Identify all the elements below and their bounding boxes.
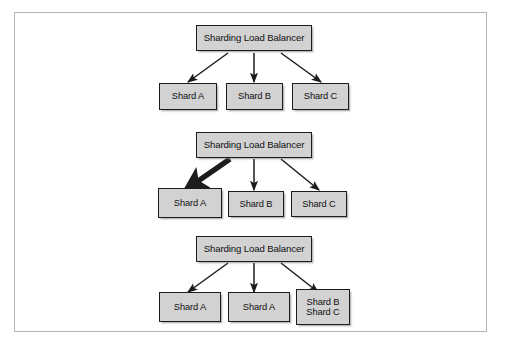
connector-middle-to-shard-c — [281, 159, 319, 190]
shard-node-middle-a[interactable]: Shard A — [158, 188, 222, 218]
load-balancer-top-label: Sharding Load Balancer — [204, 33, 305, 44]
connector-bottom-to-shard-3 — [281, 263, 318, 292]
load-balancer-middle-label: Sharding Load Balancer — [204, 140, 305, 151]
load-balancer-top[interactable]: Sharding Load Balancer — [196, 25, 312, 51]
shard-node-bottom-2[interactable]: Shard A — [228, 292, 290, 322]
shard-node-top-b[interactable]: Shard B — [226, 83, 283, 110]
shard-node-middle-a-label: Shard A — [174, 198, 206, 208]
shard-node-top-a-label: Shard A — [172, 91, 204, 101]
shard-node-top-c-label: Shard C — [304, 91, 337, 101]
shard-node-top-b-label: Shard B — [238, 91, 271, 101]
load-balancer-bottom[interactable]: Sharding Load Balancer — [196, 236, 312, 262]
connector-group-bottom — [188, 263, 318, 292]
shard-node-bottom-2-label: Shard A — [243, 302, 275, 312]
shard-node-bottom-3-label: Shard B Shard C — [306, 297, 339, 318]
connector-middle-to-shard-a-heavy — [188, 159, 230, 188]
load-balancer-bottom-label: Sharding Load Balancer — [204, 244, 305, 255]
connector-top-to-shard-a — [188, 53, 228, 82]
connector-group-middle — [188, 159, 319, 190]
shard-node-bottom-1[interactable]: Shard A — [159, 292, 221, 322]
connector-group-top — [188, 53, 321, 82]
shard-node-middle-b-label: Shard B — [240, 199, 273, 209]
shard-node-bottom-3[interactable]: Shard B Shard C — [296, 289, 350, 325]
connector-bottom-to-shard-1 — [188, 263, 228, 292]
figure-root: Sharding Load Balancer Shard A Shard B S… — [0, 0, 505, 344]
load-balancer-middle[interactable]: Sharding Load Balancer — [196, 132, 312, 158]
shard-node-middle-b[interactable]: Shard B — [228, 191, 284, 217]
shard-node-middle-c-label: Shard C — [302, 199, 335, 209]
shard-node-top-c[interactable]: Shard C — [292, 83, 349, 110]
shard-node-top-a[interactable]: Shard A — [159, 83, 217, 110]
shard-node-bottom-1-label: Shard A — [174, 302, 206, 312]
connector-top-to-shard-c — [281, 53, 321, 82]
shard-node-middle-c[interactable]: Shard C — [291, 191, 347, 217]
